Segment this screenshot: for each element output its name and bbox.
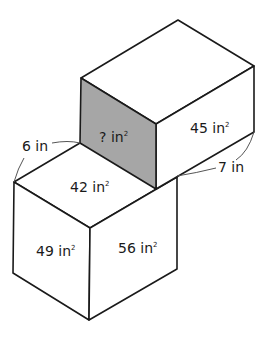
right-edge-dimension-label: 7 in xyxy=(218,159,244,175)
prisms-diagram: ? in2 45 in2 42 in2 49 in2 56 in2 6 in 7… xyxy=(0,0,274,350)
top-face-area-label: 42 in2 xyxy=(70,179,110,195)
left-edge-dimension-label: 6 in xyxy=(22,138,48,154)
left-dimension-bracket-top xyxy=(52,142,80,144)
side-face-area-label: 45 in2 xyxy=(190,120,230,136)
right-face-area-label: 56 in2 xyxy=(118,240,158,256)
diagram-canvas: ? in2 45 in2 42 in2 49 in2 56 in2 6 in 7… xyxy=(0,0,274,350)
left-face-area-label: 49 in2 xyxy=(36,243,76,259)
